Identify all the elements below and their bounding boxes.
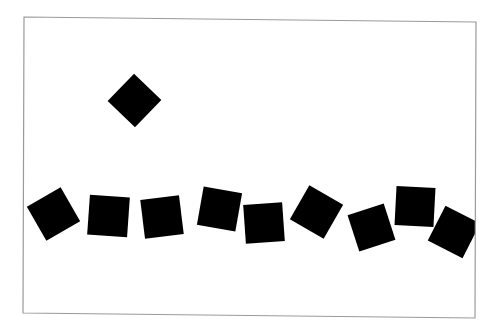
figure-canvas	[0, 0, 499, 325]
row-square-3	[140, 195, 183, 238]
row-square-4	[197, 186, 242, 231]
row-square-8	[395, 186, 436, 227]
background	[0, 0, 499, 325]
row-square-5	[243, 202, 285, 244]
row-square-2	[87, 195, 130, 238]
